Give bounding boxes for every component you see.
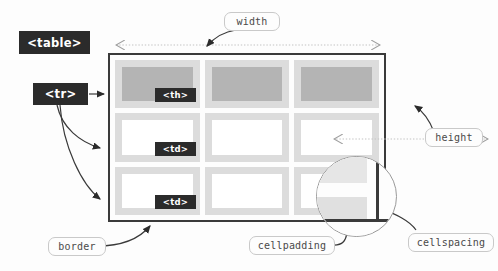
magnified-table-border (376, 157, 379, 219)
tag-chip-tr: <tr> (33, 83, 88, 105)
tag-chip-td-row2: <td> (155, 142, 196, 156)
tag-chip-th-label: <th> (163, 90, 189, 100)
tag-chip-tr-label: <tr> (45, 87, 77, 101)
tag-chip-td-row3-label: <td> (163, 197, 189, 207)
tr-leader-arrow-row2 (57, 105, 100, 148)
pill-cellpadding-label: cellpadding (258, 240, 326, 251)
cell-content-area (212, 67, 283, 101)
pill-cellpadding: cellpadding (249, 236, 335, 255)
cell-content-area (301, 67, 372, 101)
width-leader-arrow (207, 30, 236, 46)
pill-height: height (425, 128, 483, 147)
cell-content-area (212, 120, 283, 154)
table-cell-th (205, 60, 290, 108)
pill-cellspacing-label: cellspacing (417, 237, 485, 248)
table-cell-td (205, 167, 290, 215)
pill-height-label: height (435, 132, 472, 143)
tag-chip-td-row2-label: <td> (163, 144, 189, 154)
pill-border-label: border (58, 241, 95, 252)
magnified-cell-lower (317, 197, 367, 219)
tag-chip-table: <table> (19, 31, 90, 54)
pill-cellspacing: cellspacing (408, 233, 494, 252)
table-anatomy-diagram: <table> <tr> <th> <td> <td> width height… (0, 0, 498, 271)
tr-leader-arrow-row3 (60, 105, 100, 199)
table-cell-th (294, 60, 379, 108)
tag-chip-table-label: <table> (27, 36, 82, 50)
tag-chip-th: <th> (155, 88, 196, 102)
table-cell-td (205, 113, 290, 161)
magnified-table-bottom-border (317, 219, 396, 222)
pill-width: width (224, 12, 280, 31)
table-cell-td (294, 113, 379, 161)
pill-width-label: width (236, 16, 267, 27)
cell-content-area (212, 174, 283, 208)
pill-border: border (48, 237, 106, 256)
cellspacing-magnifier (316, 156, 397, 237)
magnified-cell-inner (317, 183, 367, 197)
cell-content-area (301, 120, 372, 154)
magnified-spacing-gap (367, 157, 376, 219)
magnified-cell-fill (317, 157, 367, 183)
tag-chip-td-row3: <td> (155, 195, 196, 209)
